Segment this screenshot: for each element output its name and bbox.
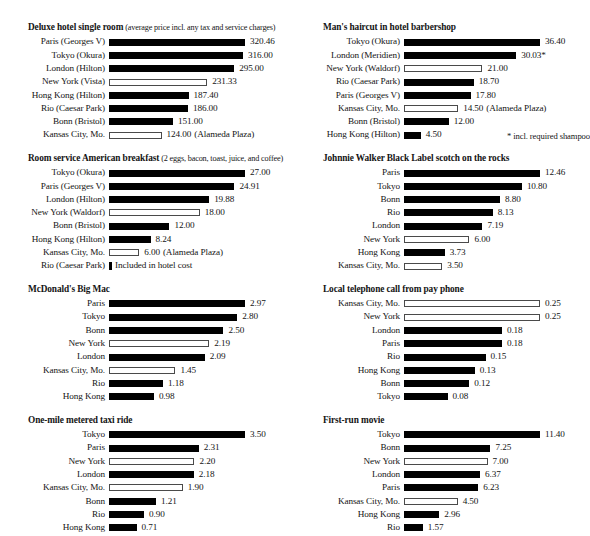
value-bar: [109, 380, 163, 387]
value-bar: [404, 209, 493, 216]
chart-room-service-american-breakfast: Room service American breakfast (2 eggs,…: [10, 153, 295, 273]
bar-area: 2.20: [109, 455, 295, 468]
row-value: 151.00: [173, 117, 203, 127]
row-label: Hong Kong (Hilton): [10, 91, 109, 101]
value-bar: [404, 118, 449, 125]
row-label: Bonn: [305, 379, 404, 389]
chart-row: Paris12.46: [305, 166, 590, 179]
row-label: Bonn: [10, 326, 109, 336]
bar-area: 30.03*: [404, 49, 590, 62]
chart-row: Hong Kong0.98: [10, 390, 295, 403]
row-value: 18.00: [200, 208, 225, 218]
chart-row: Kansas City, Mo.6.00(Alameda Plaza): [10, 246, 295, 259]
row-value: 2.80: [237, 312, 258, 322]
bar-area: 0.71: [109, 521, 295, 534]
value-bar: [404, 511, 439, 518]
chart-title-main: Man's haircut in hotel barbershop: [323, 22, 456, 32]
row-label: Bonn: [305, 195, 404, 205]
bar-area: 17.80: [404, 89, 590, 102]
row-label: Paris (Georges V): [305, 91, 404, 101]
row-value: 8.80: [500, 195, 521, 205]
row-value: 8.13: [493, 208, 514, 218]
bar-area: 0.25: [404, 297, 590, 310]
row-value: 4.50: [458, 497, 479, 507]
bar-area: 3.50: [109, 428, 295, 441]
row-label: New York: [305, 235, 404, 245]
row-value: 2.20: [194, 457, 215, 467]
value-bar: [109, 498, 156, 505]
row-value: 6.00: [139, 248, 160, 258]
chart-row: Paris6.23: [305, 481, 590, 494]
row-value: 1.45: [175, 366, 196, 376]
chart-row: London6.37: [305, 468, 590, 481]
row-value: 11.40: [540, 430, 565, 440]
bar-area: 6.23: [404, 481, 590, 494]
bar-area: 231.33: [109, 75, 295, 88]
value-bar: [404, 249, 445, 256]
value-bar: [109, 52, 243, 59]
row-label: Hong Kong (Hilton): [10, 235, 109, 245]
row-value: 0.98: [154, 392, 175, 402]
row-label: New York (Waldorf): [305, 64, 404, 74]
value-bar: [109, 196, 209, 203]
row-value: 2.09: [205, 352, 226, 362]
chart-row: Kansas City, Mo.1.90: [10, 481, 295, 494]
row-label: Hong Kong: [10, 392, 109, 402]
bar-area: 11.40: [404, 428, 590, 441]
chart-subtitle: (average price incl. any tax and service…: [123, 23, 275, 32]
row-note: (Alameda Plaza): [191, 130, 254, 140]
row-value: 320.46: [245, 37, 275, 47]
row-value: 6.37: [480, 470, 501, 480]
value-bar: [404, 354, 486, 361]
bar-area: 2.96: [404, 508, 590, 521]
row-label: New York: [305, 312, 404, 322]
chart-row: Tokyo (Okura)36.40: [305, 36, 590, 49]
row-label: Bonn (Bristol): [10, 117, 109, 127]
bar-area: 0.12: [404, 377, 590, 390]
value-bar: [109, 170, 245, 177]
row-value: 8.24: [151, 235, 172, 245]
chart-title: Johnnie Walker Black Label scotch on the…: [323, 153, 590, 164]
row-value: 30.03*: [516, 51, 546, 61]
bar-area: 0.18: [404, 324, 590, 337]
value-bar: [404, 314, 540, 321]
chart-row: Bonn (Bristol)12.00: [10, 220, 295, 233]
left-column: Deluxe hotel single room (average price …: [10, 22, 295, 536]
bar-area: 24.91: [109, 180, 295, 193]
right-column: Man's haircut in hotel barbershopTokyo (…: [305, 22, 590, 536]
bar-area: 0.90: [109, 508, 295, 521]
row-label: Rio: [10, 379, 109, 389]
row-label: New York: [10, 339, 109, 349]
chart-row: Rio1.57: [305, 521, 590, 534]
bar-area: 1.90: [109, 481, 295, 494]
chart-rows: Tokyo3.50Paris2.31New York2.20London2.18…: [10, 428, 295, 534]
row-value: 187.40: [189, 91, 219, 101]
value-bar: [404, 367, 475, 374]
row-value: 12.00: [449, 117, 474, 127]
row-label: Tokyo: [10, 430, 109, 440]
value-bar: [109, 445, 199, 452]
row-label: London: [10, 352, 109, 362]
chart-first-run-movie: First-run movieTokyo11.40Bonn7.25New Yor…: [305, 415, 590, 535]
bar-area: 14.50(Alameda Plaza): [404, 102, 590, 115]
chart-one-mile-metered-taxi-ride: One-mile metered taxi rideTokyo3.50Paris…: [10, 415, 295, 535]
row-label: London: [305, 470, 404, 480]
row-value: 6.23: [478, 483, 499, 493]
value-bar: [404, 52, 516, 59]
chart-row: New York6.00: [305, 233, 590, 246]
chart-row: Hong Kong2.96: [305, 508, 590, 521]
row-label: London: [10, 470, 109, 480]
value-bar: [109, 484, 183, 491]
row-label: Kansas City, Mo.: [10, 248, 109, 258]
bar-area: 12.00: [404, 115, 590, 128]
value-bar: [109, 524, 137, 531]
bar-area: 2.09: [109, 350, 295, 363]
row-label: Tokyo: [305, 392, 404, 402]
chart-row: Kansas City, Mo.1.45: [10, 364, 295, 377]
row-label: Paris (Georges V): [10, 37, 109, 47]
bar-area: 0.25: [404, 311, 590, 324]
chart-row: London (Meridien)30.03*: [305, 49, 590, 62]
bar-area: 10.80: [404, 180, 590, 193]
row-value: 4.50: [421, 130, 442, 140]
